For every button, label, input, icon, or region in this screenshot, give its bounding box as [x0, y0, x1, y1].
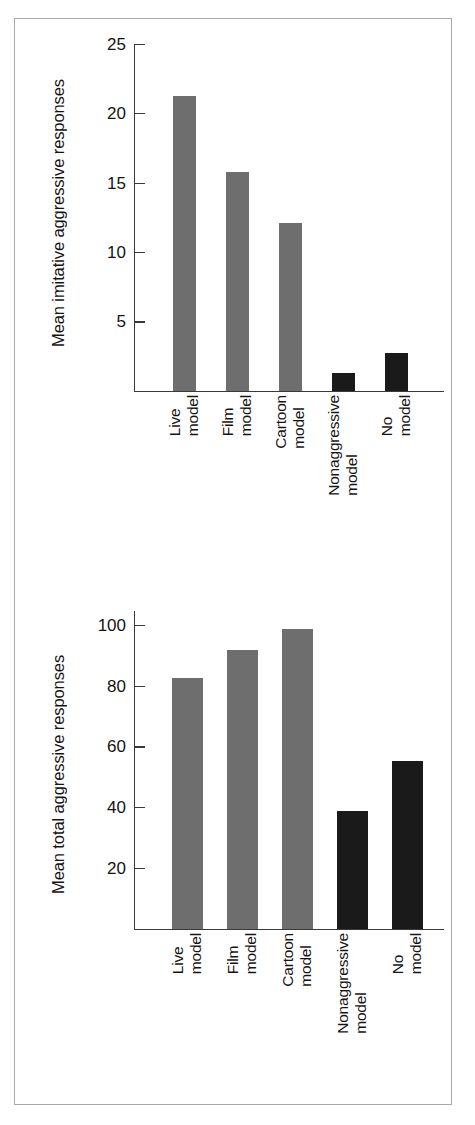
- bar: [172, 678, 203, 929]
- bar-slot: [385, 45, 408, 391]
- figure-frame: Mean imitative aggressive responses 5101…: [14, 18, 452, 1105]
- category-label-line: model: [290, 395, 307, 449]
- x-axis-line-bottom: [134, 929, 444, 930]
- bar-slot: [172, 611, 203, 929]
- category-label-line: Film: [219, 395, 236, 436]
- plot-area-bottom: 20406080100: [134, 611, 412, 930]
- category-label-line: model: [297, 933, 314, 987]
- bar: [392, 761, 423, 929]
- bar-slot: [173, 45, 196, 391]
- bar: [226, 172, 249, 390]
- category-label-line: Film: [224, 933, 241, 974]
- bar: [227, 650, 258, 928]
- category-label-line: Live: [169, 933, 186, 974]
- y-axis-tick-label: 20: [107, 105, 126, 122]
- bar: [282, 629, 313, 928]
- category-label-group: Nonaggressivemodel: [325, 395, 361, 496]
- bar-slot: [392, 611, 423, 929]
- category-label-group: Livemodel: [169, 933, 205, 974]
- y-axis-tick-label: 40: [107, 799, 126, 816]
- y-axis-title-bottom: Mean total aggressive responses: [49, 605, 68, 943]
- y-axis-tick-label: 5: [117, 313, 126, 330]
- category-label-line: No: [389, 933, 406, 974]
- y-axis-tick-label: 15: [107, 174, 126, 191]
- bar-slot: [282, 611, 313, 929]
- bar: [173, 96, 196, 390]
- x-axis-line-top: [134, 391, 444, 392]
- y-axis-tick-label: 80: [107, 677, 126, 694]
- category-label-line: No: [378, 395, 395, 436]
- category-label-line: Nonaggressive: [334, 933, 351, 1034]
- x-axis-category-labels-top: LivemodelFilmmodelCartoonmodelNonaggress…: [134, 395, 412, 535]
- bar-slot: [227, 611, 258, 929]
- category-label-line: model: [237, 395, 254, 436]
- category-label-line: model: [352, 933, 369, 1034]
- bar-slot: [337, 611, 368, 929]
- bar-slot: [279, 45, 302, 391]
- category-label-group: Cartoonmodel: [279, 933, 315, 987]
- category-label-line: model: [184, 395, 201, 436]
- x-axis-category-labels-bottom: LivemodelFilmmodelCartoonmodelNonaggress…: [134, 933, 412, 1093]
- category-label-line: model: [242, 933, 259, 974]
- category-label-line: model: [407, 933, 424, 974]
- category-label-group: Cartoonmodel: [272, 395, 308, 449]
- category-label-group: Filmmodel: [219, 395, 255, 436]
- plot-area-top: 510152025: [134, 45, 412, 392]
- y-axis-tick-label: 10: [107, 243, 126, 260]
- category-label-line: Cartoon: [279, 933, 296, 987]
- chart-panel-total-aggression: Mean total aggressive responses 20406080…: [15, 567, 453, 1097]
- category-label-line: Cartoon: [272, 395, 289, 449]
- bar: [332, 373, 355, 391]
- category-label-line: Live: [166, 395, 183, 436]
- y-axis-tick-label: 60: [107, 738, 126, 755]
- bar: [279, 223, 302, 390]
- category-label-group: Nonaggressivemodel: [334, 933, 370, 1034]
- category-label-line: model: [343, 395, 360, 496]
- category-label-line: model: [187, 933, 204, 974]
- bar: [385, 353, 408, 390]
- category-label-group: Nomodel: [389, 933, 425, 974]
- category-label-line: Nonaggressive: [325, 395, 342, 496]
- y-axis-title-top: Mean imitative aggressive responses: [49, 33, 68, 393]
- bar-group-top: [135, 45, 412, 391]
- category-label-group: Filmmodel: [224, 933, 260, 974]
- bar-slot: [332, 45, 355, 391]
- category-label-group: Nomodel: [378, 395, 414, 436]
- bar-slot: [226, 45, 249, 391]
- bar: [337, 811, 368, 929]
- chart-panel-imitative-aggression: Mean imitative aggressive responses 5101…: [15, 19, 453, 539]
- y-axis-tick-label: 100: [98, 616, 126, 633]
- y-axis-tick-label: 20: [107, 859, 126, 876]
- bar-group-bottom: [135, 611, 412, 929]
- category-label-group: Livemodel: [166, 395, 202, 436]
- y-axis-tick-label: 25: [107, 35, 126, 52]
- category-label-line: model: [396, 395, 413, 436]
